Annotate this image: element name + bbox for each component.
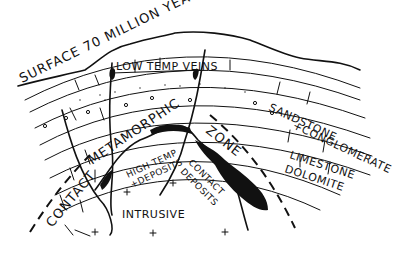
label-intrusive: INTRUSIVE (122, 208, 185, 221)
geologic-cross-section-diagram: SURFACE 70 MILLION YEARS AGO LOW TEMP VE… (0, 0, 402, 258)
contact-deposit-cap (150, 124, 192, 135)
